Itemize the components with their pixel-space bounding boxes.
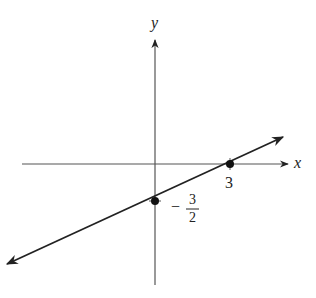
- y-intercept-label-denominator: 2: [189, 210, 196, 225]
- y-intercept-label-numerator: 3: [189, 192, 196, 207]
- y-axis-label: y: [149, 14, 159, 32]
- x-intercept-label: 3: [225, 174, 233, 191]
- y-intercept-point: [151, 197, 159, 205]
- x-axis-label: x: [293, 154, 301, 171]
- graph-canvas: y x 3 − 3 2: [0, 0, 316, 298]
- graph-line: [7, 137, 283, 264]
- y-intercept-label-sign: −: [171, 198, 180, 215]
- x-intercept-point: [226, 160, 234, 168]
